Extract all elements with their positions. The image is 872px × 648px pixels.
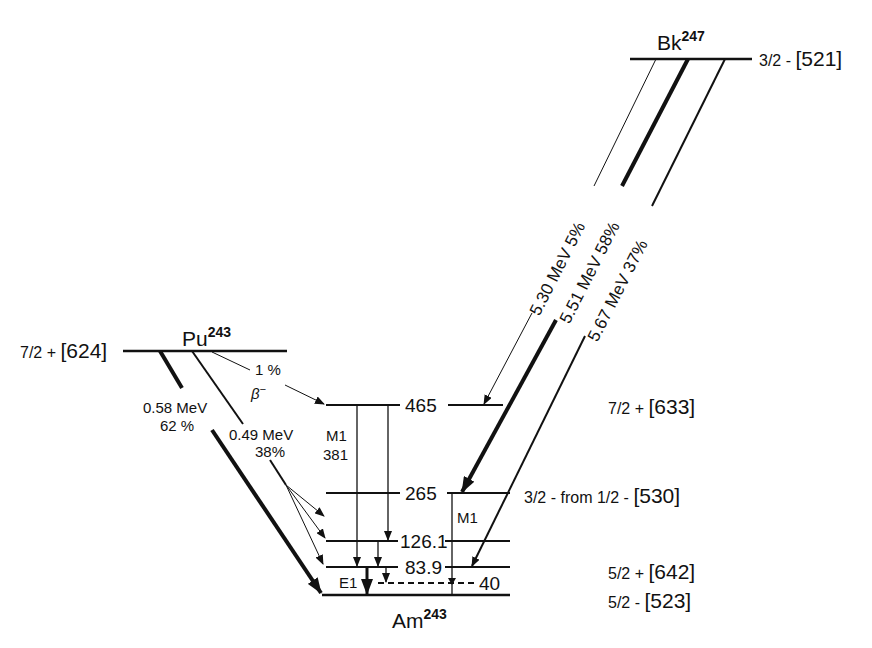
beta-058-top — [160, 351, 182, 388]
level-265-label: 265 — [405, 484, 437, 503]
bk-nilsson: [521] — [795, 47, 842, 70]
beta-058-energy: 0.58 MeV — [143, 400, 207, 415]
am-mass: 243 — [424, 606, 447, 622]
bk-mass: 247 — [682, 28, 705, 44]
am-symbol: Am — [392, 609, 424, 632]
assign-523: 5/2 - [523] — [608, 590, 691, 611]
beta-049-energy: 0.49 MeV — [229, 427, 293, 442]
alpha-567-line-top — [652, 59, 725, 206]
pu243-label: Pu243 — [182, 325, 231, 349]
pu-nilsson: [624] — [60, 339, 107, 362]
gamma-m1-label: M1 — [326, 428, 347, 443]
beta-049-intensity: 38% — [255, 444, 285, 459]
bk247-spin: 3/2 - [521] — [759, 48, 842, 69]
gamma-381-label: 381 — [323, 447, 348, 462]
beta-058-intensity: 62 % — [160, 418, 194, 433]
level-40-label: 40 — [479, 574, 500, 593]
am243-label: Am243 — [392, 607, 447, 631]
assign-633: 7/2 + [633] — [608, 396, 695, 417]
bk247-label: Bk247 — [657, 29, 705, 53]
bk-symbol: Bk — [657, 31, 682, 54]
alpha-530-line-bot — [484, 313, 532, 404]
pu-mass: 243 — [208, 324, 231, 340]
alpha-551-line-top — [622, 59, 688, 186]
gamma-m1-265-label: M1 — [457, 510, 478, 525]
beta-1pct-bottom — [285, 385, 324, 404]
pu243-spin: 7/2 + [624] — [20, 340, 107, 361]
beta-minus-symbol: β− — [251, 384, 266, 401]
assign-642: 5/2 + [642] — [608, 561, 695, 582]
beta-1pct-intensity: 1 % — [255, 362, 281, 377]
beta-049-bottom — [270, 460, 286, 485]
assign-530: 3/2 - from 1/2 - [530] — [524, 485, 680, 506]
level-465-label: 465 — [405, 396, 437, 415]
beta-1pct-top — [212, 352, 250, 370]
pu-symbol: Pu — [182, 327, 208, 350]
level-126-label: 126.1 — [400, 532, 448, 551]
level-84-label: 83.9 — [405, 558, 442, 577]
alpha-530-line-top — [594, 59, 656, 186]
gamma-e1-label: E1 — [339, 575, 357, 590]
